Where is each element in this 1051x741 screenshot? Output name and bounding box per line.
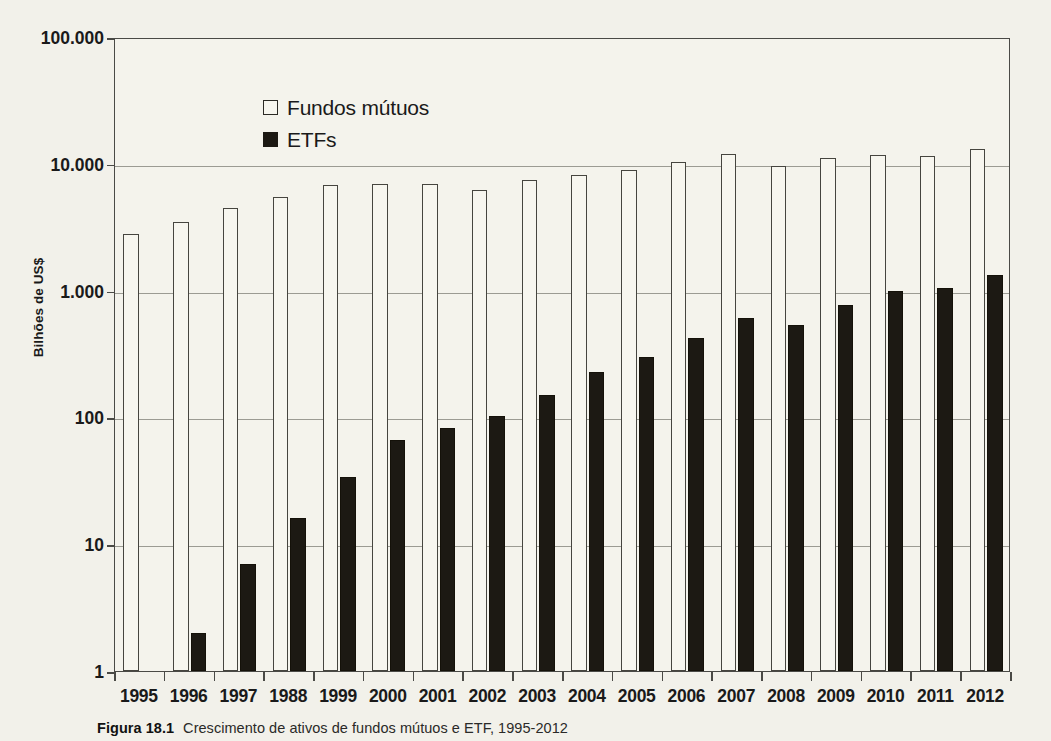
bar-fundos-mutuos-2011 [920,156,936,671]
bar-fundos-mutuos-2009 [820,158,836,671]
bar-fundos-mutuos-1999 [323,185,339,671]
bar-etfs-2000 [390,440,406,671]
bar-etfs-2012 [987,275,1003,671]
y-tick-label: 1 [0,662,104,683]
x-tick-label-2012: 2012 [966,686,1004,707]
y-tick-label: 10 [0,535,104,556]
x-tick-mark [214,672,216,681]
y-tick-mark [107,418,114,420]
x-tick-label-2003: 2003 [518,686,556,707]
bar-etfs-1999 [340,477,356,671]
bar-fundos-mutuos-2012 [970,149,986,671]
y-tick-label: 100 [0,408,104,429]
bar-etfs-2008 [788,325,804,671]
bar-fundos-mutuos-2001 [422,184,438,671]
legend-item-fundos-mutuos: Fundos mútuos [263,91,513,123]
x-tick-label-1999: 1999 [319,686,357,707]
x-tick-label-2005: 2005 [618,686,656,707]
bar-fundos-mutuos-2000 [372,184,388,671]
bar-etfs-2011 [937,288,953,671]
bars-layer [115,39,1009,671]
figure-root: Bilhões de US$ 1101001.00010.000100.000 … [0,0,1051,741]
bar-etfs-2007 [738,318,754,671]
bar-etfs-2003 [539,395,555,671]
y-tick-mark [107,545,114,547]
x-tick-mark [910,672,912,681]
bar-fundos-mutuos-2004 [571,175,587,671]
x-tick-label-2000: 2000 [369,686,407,707]
bar-fundos-mutuos-2007 [721,154,737,671]
y-axis-title: Bilhões de US$ [31,208,46,408]
y-tick-label: 100.000 [0,28,104,49]
bar-etfs-2002 [489,416,505,671]
x-tick-label-1997: 1997 [220,686,258,707]
bar-fundos-mutuos-1995 [123,234,139,671]
figure-caption: Figura 18.1Crescimento de ativos de fund… [97,720,568,736]
x-tick-mark [1010,672,1012,681]
x-tick-label-2006: 2006 [668,686,706,707]
x-tick-mark [413,672,415,681]
y-tick-mark [107,292,114,294]
x-tick-label-2004: 2004 [568,686,606,707]
x-tick-mark [960,672,962,681]
x-tick-label-2011: 2011 [917,686,954,707]
x-tick-mark [313,672,315,681]
x-tick-label-2001: 2001 [419,686,457,707]
legend-swatch-open-square-icon [263,100,278,115]
x-tick-label-1995: 1995 [120,686,158,707]
bar-etfs-2005 [639,357,655,671]
x-tick-mark [562,672,564,681]
x-tick-mark [861,672,863,681]
x-tick-mark [811,672,813,681]
x-tick-mark [612,672,614,681]
x-tick-mark [662,672,664,681]
x-tick-label-2002: 2002 [468,686,506,707]
y-tick-label: 1.000 [0,281,104,302]
legend-swatch-filled-square-icon [263,132,278,147]
x-tick-mark [462,672,464,681]
x-tick-label-2007: 2007 [717,686,755,707]
legend-item-etfs: ETFs [263,123,513,155]
bar-fundos-mutuos-2005 [621,170,637,671]
bar-fundos-mutuos-2010 [870,155,886,671]
x-tick-label-2008: 2008 [767,686,805,707]
bar-etfs-1996 [191,633,207,671]
x-tick-mark [711,672,713,681]
y-tick-mark [107,165,114,167]
x-tick-mark [761,672,763,681]
y-tick-label: 10.000 [0,154,104,175]
figure-caption-label: Figura 18.1 [97,720,174,736]
bar-etfs-2004 [589,372,605,671]
bar-etfs-2006 [688,338,704,671]
x-tick-label-2009: 2009 [817,686,855,707]
y-tick-mark [107,672,114,674]
x-tick-mark [363,672,365,681]
bar-fundos-mutuos-2002 [472,190,488,671]
bar-etfs-2010 [888,291,904,671]
bar-fundos-mutuos-1988 [273,197,289,671]
chart-legend: Fundos mútuos ETFs [263,91,513,155]
x-tick-mark [164,672,166,681]
bar-etfs-1988 [290,518,306,671]
bar-etfs-1997 [240,564,256,671]
legend-label-etfs: ETFs [287,129,336,150]
y-tick-mark [107,38,114,40]
bar-fundos-mutuos-1997 [223,208,239,671]
plot-area: Fundos mútuos ETFs [114,38,1010,672]
legend-label-fundos-mutuos: Fundos mútuos [287,97,429,118]
x-tick-label-1988: 1988 [269,686,307,707]
bar-etfs-2001 [440,428,456,671]
bar-fundos-mutuos-2008 [771,166,787,671]
x-tick-mark [263,672,265,681]
figure-caption-text: Crescimento de ativos de fundos mútuos e… [183,720,568,736]
x-tick-label-1996: 1996 [170,686,208,707]
bar-fundos-mutuos-1996 [173,222,189,671]
bar-etfs-2009 [838,305,854,672]
bar-fundos-mutuos-2006 [671,162,687,671]
x-tick-mark [512,672,514,681]
x-tick-label-2010: 2010 [867,686,905,707]
x-tick-mark [114,672,116,681]
bar-fundos-mutuos-2003 [522,180,538,671]
